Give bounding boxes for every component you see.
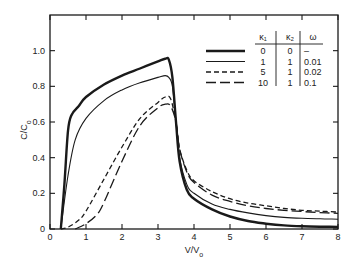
- legend-cell: 1: [260, 57, 265, 67]
- legend-cell: 1: [287, 67, 292, 77]
- data-series: [61, 58, 338, 229]
- x-tick-label: 1: [83, 232, 88, 242]
- legend-cell: 10: [258, 78, 268, 88]
- x-tick-label: 2: [119, 232, 124, 242]
- x-tick-label: 8: [335, 232, 340, 242]
- x-axis-label: V/Vo: [185, 245, 204, 258]
- legend-cell: 1: [287, 78, 292, 88]
- legend-cell: –: [304, 46, 309, 56]
- series-line-short-dash: [61, 96, 338, 229]
- y-tick-label: 0.6: [32, 117, 45, 127]
- legend-header: κ₂: [286, 32, 295, 42]
- x-tick-label: 7: [299, 232, 304, 242]
- y-tick-label: 0.8: [32, 81, 45, 91]
- legend-cell: 0: [260, 46, 265, 56]
- line-chart: 00.20.40.60.81.0 012345678 κ₁κ₂ω00–110.0…: [0, 0, 357, 265]
- y-tick-label: 1.0: [32, 46, 45, 56]
- series-line-long-dash: [75, 104, 338, 229]
- y-tick-labels: 00.20.40.60.81.0: [32, 46, 45, 234]
- legend-cell: 0.02: [304, 67, 322, 77]
- series-line-thick-solid: [61, 58, 338, 229]
- plot-frame: [50, 15, 338, 229]
- legend-cell: 5: [260, 67, 265, 77]
- y-axis-label: C/Co: [19, 120, 32, 140]
- x-tick-label: 0: [47, 232, 52, 242]
- legend-cell: 0.01: [304, 57, 322, 67]
- y-tick-label: 0.2: [32, 188, 45, 198]
- legend-header: ω: [309, 32, 316, 42]
- axis-ticks: [50, 15, 338, 229]
- y-tick-label: 0.4: [32, 153, 45, 163]
- x-tick-labels: 012345678: [47, 232, 340, 242]
- y-tick-label: 0: [40, 224, 45, 234]
- legend-table: κ₁κ₂ω00–110.01510.021010.1: [206, 31, 323, 88]
- x-tick-label: 6: [263, 232, 268, 242]
- legend-header: κ₁: [259, 32, 267, 42]
- x-tick-label: 5: [227, 232, 232, 242]
- legend-cell: 0: [287, 46, 292, 56]
- legend-cell: 1: [287, 57, 292, 67]
- x-tick-label: 3: [155, 232, 160, 242]
- legend-cell: 0.1: [304, 78, 317, 88]
- x-tick-label: 4: [191, 232, 196, 242]
